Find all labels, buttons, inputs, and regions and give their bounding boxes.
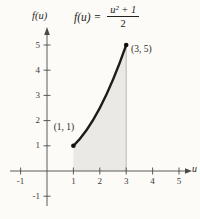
- y-tick-label: 4: [24, 65, 40, 76]
- data-point-dot: [124, 43, 129, 48]
- y-axis-label: f(u): [32, 10, 47, 21]
- y-tick-label: 5: [24, 40, 40, 51]
- x-tick-label: 4: [146, 176, 160, 187]
- x-tick-label: 2: [93, 176, 107, 187]
- formula-fraction: u² + 1 2: [107, 3, 139, 30]
- x-tick-label: 3: [119, 176, 133, 187]
- formula-numerator: u² + 1: [107, 3, 139, 17]
- function-area-figure: f(u) = u² + 1 2 f(u) u (1, 1) (3, 5) -11…: [0, 0, 200, 219]
- point-label-1-1: (1, 1): [48, 122, 80, 133]
- x-tick-label: -1: [14, 176, 28, 187]
- formula-lhs: f(u) =: [74, 11, 101, 23]
- y-axis-arrow-icon: [44, 27, 50, 35]
- x-tick-label: 1: [66, 176, 80, 187]
- y-tick-label: -1: [24, 191, 40, 202]
- formula-denominator: 2: [121, 17, 126, 30]
- y-tick-label: 3: [24, 90, 40, 101]
- data-point-dot: [71, 144, 76, 149]
- point-label-3-5: (3, 5): [131, 44, 165, 55]
- y-tick-label: 2: [24, 115, 40, 126]
- function-formula: f(u) = u² + 1 2: [74, 3, 139, 30]
- x-axis-arrow-icon: [185, 168, 192, 174]
- x-tick-label: 5: [172, 176, 186, 187]
- x-axis-label: u: [192, 163, 197, 174]
- y-tick-label: 1: [24, 140, 40, 151]
